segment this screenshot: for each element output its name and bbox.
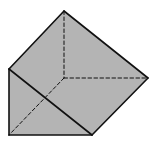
triangular-prism-diagram (0, 0, 161, 145)
prism-faces (9, 11, 148, 135)
